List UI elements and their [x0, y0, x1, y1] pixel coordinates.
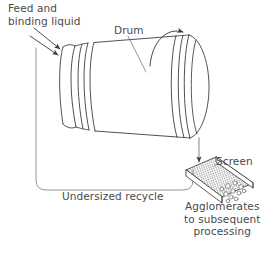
label-undersized-recycle: Undersized recycle: [62, 190, 164, 203]
rotating-drum: [60, 35, 209, 138]
label-agglomerates: Agglomerates to subsequent processing: [184, 200, 260, 238]
label-drum: Drum: [114, 24, 144, 37]
label-screen: Screen: [216, 155, 253, 168]
label-feed: Feed and binding liquid: [8, 2, 81, 27]
feed-inlet-arrow: [30, 28, 60, 55]
drum-leader-line: [128, 36, 146, 72]
